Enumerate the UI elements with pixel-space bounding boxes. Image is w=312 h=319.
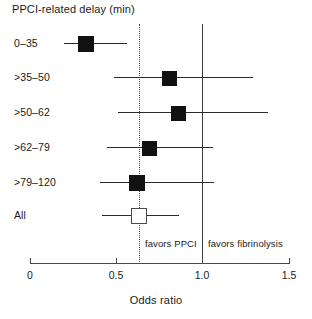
- row-label-50-62: >50–62: [14, 106, 50, 118]
- effect-marker: [171, 106, 186, 121]
- confidence-interval-line: [118, 112, 268, 113]
- pooled-effect-marker: [131, 208, 147, 224]
- x-axis-ticklabel-0-5: 0.5: [109, 269, 124, 281]
- forest-plot: PPCI-related delay (min) 0–35 >35–50 >50…: [0, 0, 312, 319]
- row-label-62-79: >62–79: [14, 141, 50, 153]
- row-label-79-120: >79–120: [14, 176, 56, 188]
- x-axis-ticklabel-0: 0: [27, 269, 33, 281]
- row-label-all: All: [14, 209, 26, 221]
- confidence-interval-line: [64, 43, 127, 44]
- effect-marker: [142, 141, 157, 156]
- row-label-0-35: 0–35: [14, 37, 38, 49]
- confidence-interval-line: [114, 77, 253, 78]
- favors-ppci-label: favors PPCI: [145, 238, 197, 249]
- effect-marker: [162, 71, 177, 86]
- confidence-interval-line: [100, 182, 214, 183]
- row-label-35-50: >35–50: [14, 71, 50, 83]
- x-axis-line: [30, 263, 290, 264]
- x-axis-tick-0-5: [116, 258, 117, 264]
- x-axis-tick-1-0: [202, 258, 203, 264]
- page-title: PPCI-related delay (min): [12, 3, 135, 15]
- effect-marker: [78, 36, 94, 52]
- effect-marker: [129, 175, 145, 191]
- x-axis-ticklabel-1-5: 1.5: [282, 269, 297, 281]
- favors-fibrinolysis-label: favors fibrinolysis: [208, 238, 283, 249]
- reference-line-or-1: [202, 24, 203, 263]
- x-axis-ticklabel-1-0: 1.0: [195, 269, 210, 281]
- x-axis-tick-0: [30, 258, 31, 264]
- x-axis-title: Odds ratio: [0, 294, 312, 306]
- pooled-estimate-dotted-line: [139, 24, 140, 264]
- x-axis-tick-1-5: [289, 258, 290, 264]
- confidence-interval-line: [107, 147, 213, 148]
